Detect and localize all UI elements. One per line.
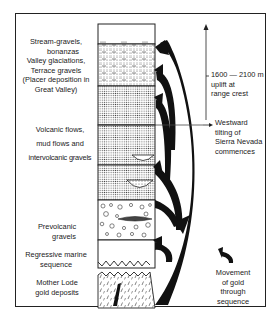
label-uplift: 1600 — 2100 m uplift at range crest bbox=[211, 70, 264, 99]
label-prevolcanic: Prevolcanic gravels bbox=[22, 222, 92, 241]
label-line: uplift at bbox=[211, 80, 264, 90]
label-line: 1600 — 2100 m bbox=[211, 70, 264, 80]
label-line: intervolcanic gravels bbox=[20, 151, 100, 165]
label-line: Stream-gravels, bbox=[18, 37, 94, 47]
label-legend: Movement of gold through sequence bbox=[208, 268, 258, 306]
label-line: gold deposits bbox=[22, 288, 92, 298]
label-line: range crest bbox=[211, 89, 264, 99]
layer-stream-gravels bbox=[98, 44, 155, 86]
label-line: Sierra Nevada bbox=[215, 137, 262, 147]
label-line: Movement bbox=[208, 268, 258, 278]
layer-volcanic-1 bbox=[98, 86, 155, 125]
label-line: Volcanic flows, bbox=[20, 123, 100, 137]
stratigraphic-column bbox=[98, 24, 155, 308]
label-tilting: Westward tilting of Sierra Nevada commen… bbox=[215, 118, 262, 156]
label-volcanic: Volcanic flows, mud flows and intervolca… bbox=[20, 123, 100, 165]
arrow-branch-5 bbox=[155, 242, 172, 262]
label-line: tilting of bbox=[215, 128, 262, 138]
label-line: Mother Lode bbox=[22, 278, 92, 288]
label-marine: Regressive marine sequence bbox=[18, 250, 94, 269]
layer-mother-lode bbox=[98, 272, 155, 308]
label-line: (Placer deposition in bbox=[18, 75, 94, 85]
label-line: Prevolcanic bbox=[22, 222, 92, 232]
layer-marine bbox=[98, 240, 155, 268]
label-line: Terrace gravels bbox=[18, 66, 94, 76]
label-line: bonanzas bbox=[18, 47, 94, 57]
uplift-indicator bbox=[204, 24, 210, 120]
label-line: Westward bbox=[215, 118, 262, 128]
label-mother-lode: Mother Lode gold deposits bbox=[22, 278, 92, 297]
label-line: commences bbox=[215, 147, 262, 157]
label-line: mud flows and bbox=[20, 137, 100, 151]
gold-movement-arrows bbox=[153, 40, 195, 305]
label-line: sequence bbox=[208, 297, 258, 307]
label-line: Valley glaciations, bbox=[18, 56, 94, 66]
label-line: sequence bbox=[18, 260, 94, 270]
label-line: gravels bbox=[22, 232, 92, 242]
label-line: of gold bbox=[208, 278, 258, 288]
label-line: through bbox=[208, 287, 258, 297]
label-line: Regressive marine bbox=[18, 250, 94, 260]
label-line: Great Valley) bbox=[18, 85, 94, 95]
layer-top-blank bbox=[98, 24, 155, 44]
label-stream-gravels: Stream-gravels, bonanzas Valley glaciati… bbox=[18, 37, 94, 94]
